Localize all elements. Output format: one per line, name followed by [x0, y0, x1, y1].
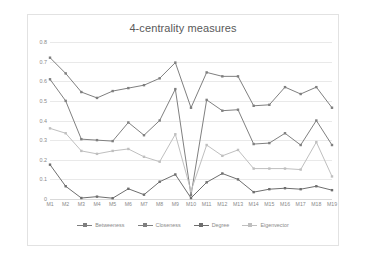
data-point-marker [127, 148, 129, 150]
legend-item-closeness[interactable]: Closeness [138, 222, 181, 228]
x-axis-tick-label: M6 [125, 201, 132, 207]
x-axis-tick-label: M3 [78, 201, 85, 207]
data-point-marker [64, 72, 66, 74]
data-point-marker [111, 140, 113, 142]
data-point-marker [174, 173, 176, 175]
data-point-marker [299, 144, 301, 146]
x-axis-tick-label: M12 [217, 201, 227, 207]
chart-legend: BetweenessClosenessDegreeEigenvector [28, 222, 338, 228]
data-point-marker [111, 90, 113, 92]
x-axis-tick-label: M7 [140, 201, 147, 207]
data-point-marker [96, 195, 98, 197]
data-point-marker [143, 84, 145, 86]
data-point-marker [205, 181, 207, 183]
data-point-marker [299, 93, 301, 95]
data-point-marker [111, 197, 113, 199]
legend-label: Betweeness [95, 222, 124, 228]
x-axis-tick-label: M11 [202, 201, 212, 207]
data-point-marker [315, 86, 317, 88]
x-axis-tick-label: M18 [311, 201, 321, 207]
data-point-marker [237, 178, 239, 180]
data-point-marker [174, 61, 176, 63]
series-line [50, 58, 332, 108]
data-point-marker [221, 172, 223, 174]
chart-card: 4-centrality measures 00.10.20.30.40.50.… [27, 14, 339, 246]
data-point-marker [299, 188, 301, 190]
data-point-marker [315, 141, 317, 143]
y-axis-tick-label: 0.4 [40, 118, 48, 124]
data-point-marker [80, 138, 82, 140]
data-point-marker [111, 150, 113, 152]
series-lines [50, 42, 332, 199]
data-point-marker [237, 109, 239, 111]
data-point-marker [174, 133, 176, 135]
data-point-marker [315, 185, 317, 187]
y-axis-tick-label: 0.6 [40, 78, 48, 84]
data-point-marker [158, 181, 160, 183]
x-axis-tick-label: M4 [93, 201, 100, 207]
data-point-marker [96, 139, 98, 141]
legend-item-eigenvector[interactable]: Eigenvector [242, 222, 288, 228]
legend-label: Degree [212, 222, 230, 228]
data-point-marker [331, 175, 333, 177]
data-point-marker [252, 105, 254, 107]
series-line [50, 128, 332, 191]
data-point-marker [127, 87, 129, 89]
data-point-marker [190, 190, 192, 192]
data-point-marker [158, 119, 160, 121]
data-point-marker [284, 132, 286, 134]
x-axis-tick-label: M15 [264, 201, 274, 207]
data-point-marker [237, 149, 239, 151]
data-point-marker [190, 197, 192, 199]
data-point-marker [221, 109, 223, 111]
data-point-marker [158, 77, 160, 79]
data-point-marker [143, 134, 145, 136]
y-axis-tick-label: 0.1 [40, 176, 48, 182]
data-point-marker [49, 78, 51, 80]
data-point-marker [127, 188, 129, 190]
data-point-marker [205, 144, 207, 146]
data-point-marker [284, 187, 286, 189]
data-point-marker [49, 57, 51, 59]
legend-item-degree[interactable]: Degree [194, 222, 230, 228]
data-point-marker [64, 100, 66, 102]
data-point-marker [127, 121, 129, 123]
legend-label: Closeness [156, 222, 181, 228]
legend-label: Eigenvector [260, 222, 288, 228]
data-point-marker [284, 167, 286, 169]
data-point-marker [96, 97, 98, 99]
data-point-marker [205, 71, 207, 73]
x-axis-tick-label: M10 [186, 201, 196, 207]
data-point-marker [158, 161, 160, 163]
plot-area: 00.10.20.30.40.50.60.70.8 [50, 42, 332, 199]
data-point-marker [315, 119, 317, 121]
data-point-marker [252, 191, 254, 193]
data-point-marker [64, 132, 66, 134]
x-axis-tick-label: M17 [296, 201, 306, 207]
x-axis-tick-label: M14 [249, 201, 259, 207]
legend-swatch-icon [138, 222, 153, 228]
legend-swatch-icon [242, 222, 257, 228]
series-betweeness [49, 57, 333, 109]
x-axis-tick-label: M19 [327, 201, 337, 207]
x-axis-tick-label: M8 [156, 201, 163, 207]
data-point-marker [268, 167, 270, 169]
chart-title: 4-centrality measures [28, 22, 338, 34]
legend-item-betweeness[interactable]: Betweeness [77, 222, 124, 228]
data-point-marker [331, 144, 333, 146]
data-point-marker [284, 86, 286, 88]
data-point-marker [268, 142, 270, 144]
data-point-marker [49, 163, 51, 165]
x-axis-tick-label: M9 [172, 201, 179, 207]
data-point-marker [143, 156, 145, 158]
x-axis-tick-label: M16 [280, 201, 290, 207]
data-point-marker [96, 153, 98, 155]
y-axis-tick-label: 0.5 [40, 98, 48, 104]
data-point-marker [237, 75, 239, 77]
x-axis-tick-label: M5 [109, 201, 116, 207]
data-point-marker [331, 107, 333, 109]
data-point-marker [268, 188, 270, 190]
legend-swatch-icon [77, 222, 92, 228]
data-point-marker [174, 88, 176, 90]
y-axis-tick-label: 0.7 [40, 59, 48, 65]
